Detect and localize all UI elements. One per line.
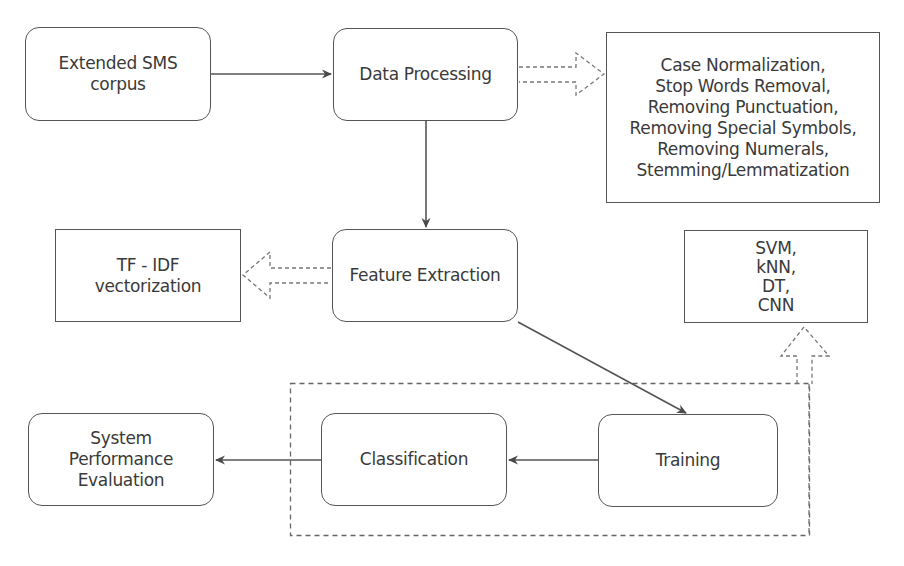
node-label: System Performance Evaluation	[69, 428, 173, 491]
node-label: Feature Extraction	[349, 265, 500, 286]
hollow-arrow-up-to-classifiers	[781, 327, 829, 384]
node-label: TF - IDF vectorization	[95, 255, 202, 297]
node-classification: Classification	[321, 413, 507, 506]
node-label: SVM, kNN, DT, CNN	[755, 239, 796, 315]
node-label: Case Normalization, Stop Words Removal, …	[630, 55, 857, 181]
node-preprocessing-steps: Case Normalization, Stop Words Removal, …	[606, 32, 880, 203]
node-label: Classification	[360, 449, 468, 470]
node-label: Training	[656, 450, 721, 471]
hollow-arrow-left-to-tfidf	[243, 252, 331, 298]
node-system-performance-evaluation: System Performance Evaluation	[28, 413, 214, 506]
hollow-arrow-right-to-preprocessing	[519, 53, 604, 95]
node-training: Training	[598, 414, 778, 507]
node-tfidf-vectorization: TF - IDF vectorization	[55, 229, 241, 322]
node-data-processing: Data Processing	[333, 28, 518, 121]
node-feature-extraction: Feature Extraction	[332, 229, 518, 322]
node-label: Data Processing	[359, 64, 491, 85]
node-label: Extended SMS corpus	[59, 53, 178, 95]
arrow-feature-extraction-to-training	[518, 322, 686, 413]
node-classifiers: SVM, kNN, DT, CNN	[684, 230, 868, 323]
node-extended-sms-corpus: Extended SMS corpus	[25, 27, 211, 121]
